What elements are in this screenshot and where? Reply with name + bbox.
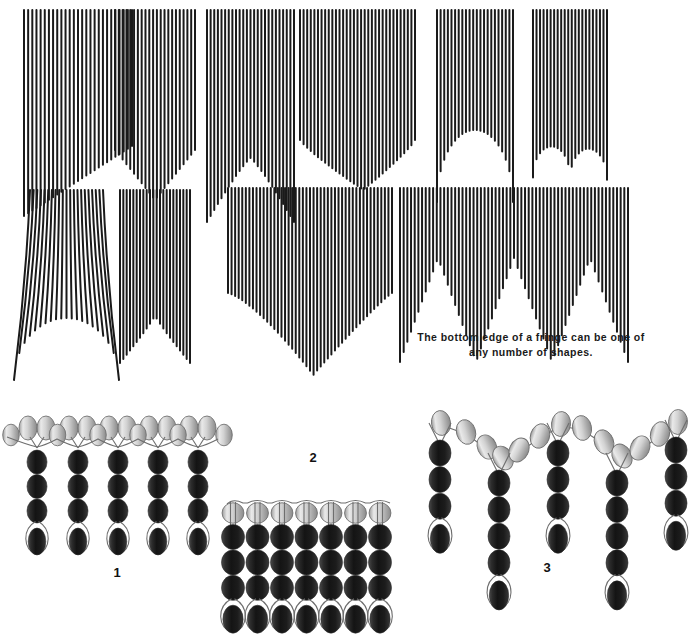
figure-label-1: 1 — [104, 565, 130, 580]
light-bead — [198, 416, 216, 440]
dark-bead — [665, 437, 687, 463]
dark-bead — [68, 475, 88, 499]
fringe-strand — [74, 190, 77, 319]
dark-bead — [488, 470, 510, 496]
dark-bead — [295, 525, 318, 550]
dark-bead — [246, 550, 269, 575]
dark-bead — [68, 450, 88, 474]
fringe-sample-group — [14, 10, 628, 380]
dark-bead — [345, 605, 365, 633]
fringe-strand — [70, 190, 72, 318]
light-bead — [247, 503, 269, 524]
light-bead — [3, 424, 20, 446]
dark-bead — [271, 575, 294, 600]
dark-bead — [429, 467, 451, 493]
dark-bead — [369, 550, 392, 575]
dark-bead — [27, 499, 47, 523]
light-bead — [130, 424, 147, 446]
dark-bead — [69, 528, 87, 555]
dark-bead — [246, 575, 269, 600]
dark-bead — [320, 550, 343, 575]
light-bead — [222, 503, 244, 524]
fringe-strand — [56, 190, 59, 319]
dark-bead — [606, 497, 628, 523]
dark-bead — [344, 525, 367, 550]
dark-bead — [247, 605, 267, 633]
dark-bead — [295, 550, 318, 575]
dark-bead — [148, 475, 168, 499]
dark-bead — [27, 475, 47, 499]
top-bead — [453, 417, 478, 446]
bead-figure-3 — [428, 409, 688, 610]
dark-bead — [488, 523, 510, 549]
light-bead — [369, 503, 391, 524]
bead-figure-2 — [221, 501, 393, 634]
fringe-sample-v-notch — [120, 190, 190, 363]
dark-bead — [271, 525, 294, 550]
light-bead — [296, 503, 318, 524]
fringe-sample-flared-curve — [14, 190, 119, 380]
dark-bead — [223, 605, 243, 633]
fringe-and-bead-illustration — [0, 0, 697, 641]
dark-bead — [488, 550, 510, 576]
light-bead — [19, 416, 37, 440]
dark-bead — [665, 464, 687, 490]
dark-bead — [188, 475, 208, 499]
fringe-caption-text: The bottom edge of a fringe can be one o… — [386, 330, 676, 360]
fringe-sample-deep-point — [228, 188, 392, 375]
light-bead — [320, 503, 342, 524]
dark-bead — [222, 550, 245, 575]
dark-bead — [369, 525, 392, 550]
dark-bead — [606, 550, 628, 576]
dark-bead — [370, 605, 390, 633]
light-bead — [216, 424, 233, 446]
fringe-sample-double-scallop — [533, 10, 607, 180]
dark-bead — [606, 523, 628, 549]
light-bead — [345, 503, 367, 524]
dark-bead — [28, 528, 46, 555]
dark-bead — [344, 575, 367, 600]
dark-bead — [548, 524, 567, 553]
dark-bead — [429, 493, 451, 519]
dark-bead — [344, 550, 367, 575]
dark-bead — [430, 524, 449, 553]
dark-bead — [489, 581, 508, 610]
dark-bead — [271, 550, 294, 575]
fringe-sample-wide-point — [300, 10, 415, 189]
fringe-strand — [61, 190, 63, 318]
dark-bead — [666, 521, 685, 550]
bead-diagram-group — [3, 409, 688, 633]
figure-label-2: 2 — [300, 450, 326, 465]
dark-bead — [149, 528, 167, 555]
dark-bead — [547, 493, 569, 519]
dark-bead — [108, 499, 128, 523]
dark-bead — [607, 581, 626, 610]
dark-bead — [148, 450, 168, 474]
fringe-sample-arch-cutout — [437, 10, 513, 202]
illustration-page: The bottom edge of a fringe can be one o… — [0, 0, 697, 641]
dark-bead — [68, 499, 88, 523]
dark-bead — [272, 605, 292, 633]
dark-bead — [108, 450, 128, 474]
dark-bead — [321, 605, 341, 633]
dark-bead — [188, 499, 208, 523]
figure-label-3: 3 — [534, 560, 560, 575]
dark-bead — [246, 525, 269, 550]
light-bead — [170, 424, 187, 446]
dark-bead — [429, 440, 451, 466]
dark-bead — [109, 528, 127, 555]
dark-bead — [295, 575, 318, 600]
dark-bead — [189, 528, 207, 555]
dark-bead — [188, 450, 208, 474]
dark-bead — [222, 575, 245, 600]
dark-bead — [665, 490, 687, 516]
dark-bead — [369, 575, 392, 600]
dark-bead — [547, 440, 569, 466]
dark-bead — [547, 467, 569, 493]
dark-bead — [148, 499, 168, 523]
fringe-sample-angled-point-center — [115, 10, 195, 198]
dark-bead — [320, 525, 343, 550]
dark-bead — [108, 475, 128, 499]
light-bead — [570, 414, 593, 442]
dark-bead — [606, 470, 628, 496]
